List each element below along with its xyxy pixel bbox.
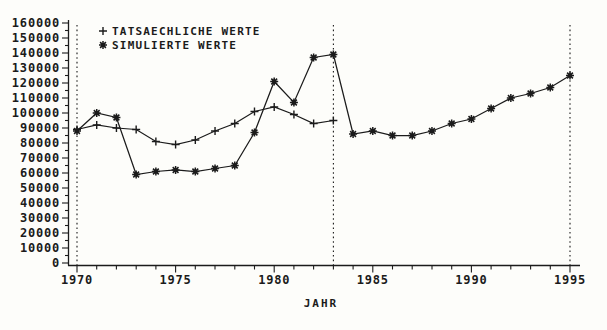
y-tick-label: 30000 <box>20 211 60 225</box>
y-tick-label: 70000 <box>20 151 60 165</box>
data-point-marker <box>93 121 101 129</box>
data-point-marker <box>448 120 456 128</box>
data-point-marker <box>191 136 199 144</box>
chart-figure: 0100002000030000400005000060000700008000… <box>0 0 607 330</box>
y-tick-label: 50000 <box>20 181 60 195</box>
data-point-marker <box>211 127 219 135</box>
data-point-marker <box>428 127 436 135</box>
data-point-marker <box>73 127 81 135</box>
data-point-marker <box>152 138 160 146</box>
y-tick-label: 100000 <box>12 106 60 120</box>
data-point-marker <box>290 99 298 107</box>
y-tick-label: 110000 <box>12 91 60 105</box>
data-point-marker <box>408 132 416 140</box>
data-point-marker <box>211 165 219 173</box>
legend-item-actual: TATSAECHLICHE WERTE <box>96 24 261 38</box>
data-point-marker <box>546 84 554 92</box>
data-point-marker <box>231 120 239 128</box>
plus-marker-icon <box>96 25 112 37</box>
axes <box>68 20 580 266</box>
data-point-marker <box>290 111 298 119</box>
data-point-marker <box>132 126 140 134</box>
series-line-1 <box>77 55 570 175</box>
x-axis-title: JAHR <box>283 297 359 310</box>
data-point-marker <box>191 168 199 176</box>
y-tick-label: 80000 <box>20 136 60 150</box>
data-point-marker <box>270 103 278 111</box>
legend-label-actual: TATSAECHLICHE WERTE <box>112 25 261 38</box>
legend-label-simulated: SIMULIERTE WERTE <box>112 39 237 52</box>
data-point-marker <box>467 115 475 123</box>
series-line-0 <box>77 107 333 145</box>
x-tick-label: 1975 <box>160 273 192 287</box>
x-tick-label: 1980 <box>258 273 290 287</box>
data-point-marker <box>527 90 535 98</box>
x-tick-label: 1990 <box>455 273 487 287</box>
data-point-marker <box>389 132 397 140</box>
data-point-marker <box>566 72 574 80</box>
data-point-marker <box>231 162 239 170</box>
y-tick-label: 150000 <box>12 31 60 45</box>
y-tick-label: 20000 <box>20 226 60 240</box>
data-point-marker <box>310 120 318 128</box>
data-point-marker <box>172 166 180 174</box>
y-tick-label: 90000 <box>20 121 60 135</box>
asterisk-marker-icon <box>96 39 112 51</box>
data-point-marker <box>270 78 278 86</box>
x-tick-label: 1985 <box>357 273 389 287</box>
data-point-marker <box>349 130 357 138</box>
line-chart: 0100002000030000400005000060000700008000… <box>0 0 607 330</box>
data-point-marker <box>93 109 101 117</box>
chart-legend: TATSAECHLICHE WERTE SIMULIERTE WERTE <box>96 24 261 52</box>
data-point-marker <box>250 108 258 116</box>
y-tick-label: 160000 <box>12 16 60 30</box>
legend-item-simulated: SIMULIERTE WERTE <box>96 38 261 52</box>
y-tick-label: 10000 <box>20 241 60 255</box>
y-tick-label: 0 <box>52 256 60 270</box>
data-point-marker <box>112 114 120 122</box>
data-point-marker <box>369 127 377 135</box>
y-tick-label: 120000 <box>12 76 60 90</box>
y-tick-label: 130000 <box>12 61 60 75</box>
data-point-marker <box>487 105 495 113</box>
data-point-marker <box>172 141 180 149</box>
data-point-marker <box>329 117 337 125</box>
data-point-marker <box>507 94 515 102</box>
data-point-marker <box>329 51 337 59</box>
y-tick-label: 40000 <box>20 196 60 210</box>
data-point-marker <box>132 171 140 179</box>
data-point-marker <box>250 129 258 137</box>
data-point-marker <box>310 54 318 62</box>
data-point-marker <box>152 168 160 176</box>
y-tick-label: 60000 <box>20 166 60 180</box>
x-tick-label: 1970 <box>61 273 93 287</box>
y-tick-label: 140000 <box>12 46 60 60</box>
x-tick-label: 1995 <box>554 273 586 287</box>
